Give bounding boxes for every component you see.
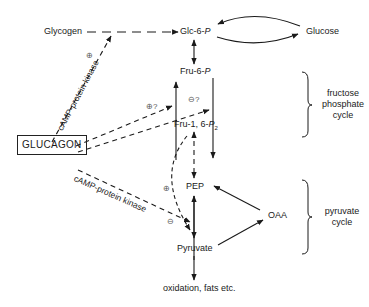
pyruvate-cycle-label: pyruvate cycle [317,206,367,228]
fructose-phosphate-cycle-label: fructose phosphate cycle [317,88,369,121]
node-glucose: Glucose [306,27,339,36]
cycle-line: cycle [317,110,369,121]
node-pep: PEP [186,182,204,191]
glucagon-box: GLUCAGON [17,135,87,155]
node-fru-1-6-p2: Fru-1, 6-P2 [174,120,218,131]
plus-sign-pep: ⊕ [163,185,170,193]
glc6p-phosphate: P [205,26,211,36]
fru6p-text: Fru-6- [180,66,205,76]
plus-question-sign: ⊕? [146,103,157,111]
cycle-line: phosphate [317,99,369,110]
node-oxidation: oxidation, fats etc. [163,284,236,293]
cycle-line: cycle [317,217,367,228]
node-glc-6-p: Glc-6-P [180,27,211,36]
fru16p2-text: Fru-1, 6- [174,119,209,129]
glc6p-text: Glc-6- [180,26,205,36]
cycle-line: fructose [317,88,369,99]
cycle-line: pyruvate [317,206,367,217]
node-oaa: OAA [268,211,287,220]
node-fru-6-p: Fru-6-P [180,67,211,76]
node-glycogen: Glycogen [44,27,82,36]
minus-sign-pyruvate-kinase: ⊖ [167,218,174,226]
fru16p2-subscript: 2 [215,125,218,131]
minus-question-sign: ⊖? [188,96,199,104]
fru6p-phosphate: P [205,66,211,76]
node-pyruvate: Pyruvate [177,244,213,253]
